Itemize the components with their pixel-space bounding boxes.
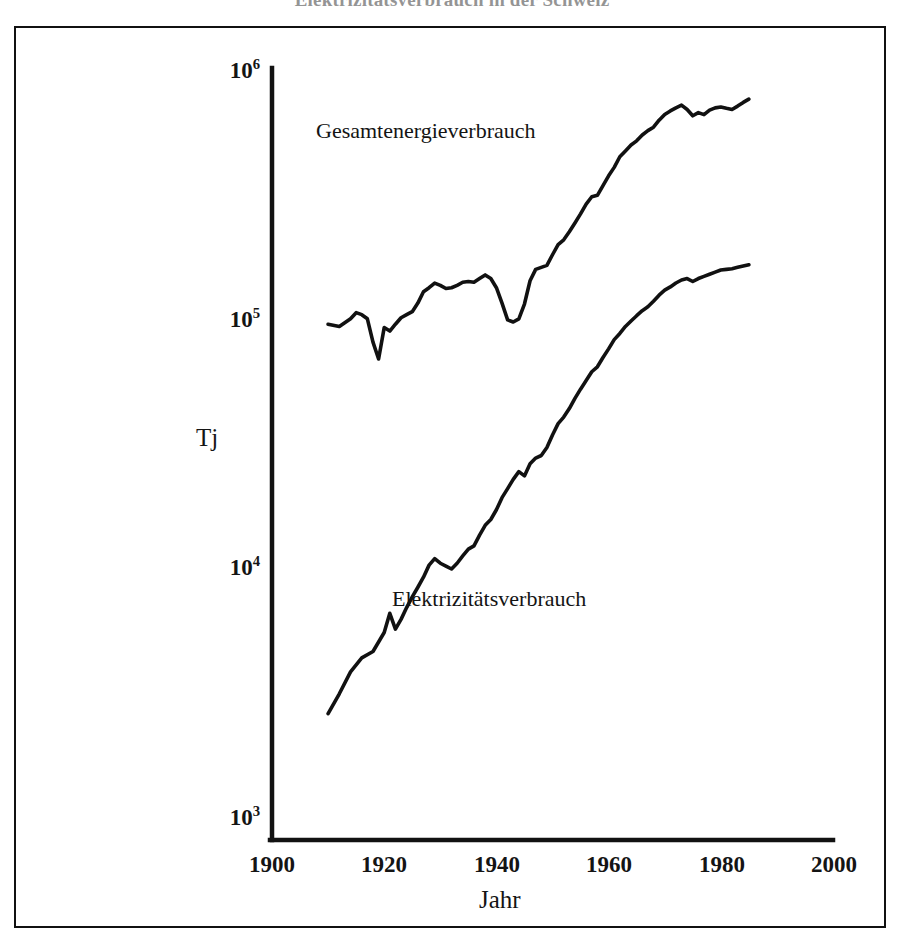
y-axis-title: Tj bbox=[196, 424, 218, 452]
series-label-gesamtenergieverbrauch: Gesamtenergieverbrauch bbox=[316, 118, 535, 144]
y-tick-label-1000000: 106 bbox=[188, 56, 260, 84]
series-label-elektrizitaetsverbrauch: Elektrizitätsverbrauch bbox=[392, 586, 586, 612]
y-tick-exponent: 5 bbox=[253, 305, 260, 321]
y-tick-exponent: 6 bbox=[253, 56, 260, 72]
y-tick-exponent: 3 bbox=[253, 803, 260, 819]
y-tick-label-100000: 105 bbox=[188, 305, 260, 333]
x-tick-label-1980: 1980 bbox=[668, 852, 776, 878]
y-tick-base: 10 bbox=[230, 58, 253, 83]
x-tick-label-1960: 1960 bbox=[555, 852, 663, 878]
x-tick-label-1920: 1920 bbox=[330, 852, 438, 878]
y-tick-label-10000: 104 bbox=[188, 553, 260, 581]
y-tick-base: 10 bbox=[230, 805, 253, 830]
y-tick-exponent: 4 bbox=[253, 553, 260, 569]
x-axis-title: Jahr bbox=[479, 886, 521, 914]
x-tick-label-1900: 1900 bbox=[218, 852, 326, 878]
y-tick-base: 10 bbox=[230, 307, 253, 332]
y-tick-label-1000: 103 bbox=[188, 803, 260, 831]
x-tick-label-1940: 1940 bbox=[443, 852, 551, 878]
y-tick-base: 10 bbox=[230, 555, 253, 580]
x-tick-label-2000: 2000 bbox=[780, 852, 888, 878]
